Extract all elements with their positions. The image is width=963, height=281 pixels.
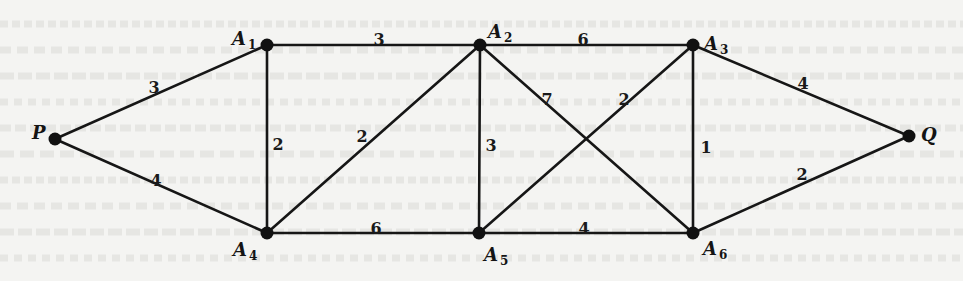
edge-weight-a3-q: 4: [797, 74, 808, 93]
node-subscript: 6: [719, 248, 727, 262]
edge-weight-a5-a6: 4: [578, 219, 589, 238]
edge-weight-a5-a3: 2: [618, 90, 629, 109]
node-p: [49, 133, 62, 146]
edge-weight-p-a1: 3: [148, 78, 159, 97]
edge-weight-a2-a3: 6: [577, 30, 588, 49]
edge-weight-a2-a6: 7: [541, 90, 552, 109]
node-q: [903, 130, 916, 143]
node-label-q: Q: [921, 124, 937, 145]
node-letter: A: [482, 244, 498, 265]
node-letter: A: [486, 21, 502, 42]
node-subscript: 5: [500, 254, 508, 268]
node-letter: A: [231, 239, 247, 260]
weighted-graph-diagram: 34322663724142 PA1A2A3A4A5A6Q: [0, 0, 963, 281]
node-a5: [473, 227, 486, 240]
edge-weight-a2-a5: 3: [485, 136, 496, 155]
edge-a2-a5: [479, 45, 480, 233]
node-letter: P: [31, 122, 46, 143]
node-letter: A: [701, 238, 717, 259]
edge-weight-a4-a5: 6: [370, 219, 381, 238]
edge-weight-a6-q: 2: [796, 165, 807, 184]
edge-weight-p-a4: 4: [150, 171, 161, 190]
node-label-p: P: [31, 122, 46, 143]
node-a2: [474, 39, 487, 52]
node-letter: A: [702, 33, 718, 54]
node-a3: [687, 39, 700, 52]
edge-weight-a4-a2: 2: [356, 127, 367, 146]
edge-weight-a3-a6: 1: [700, 138, 711, 157]
node-a6: [687, 227, 700, 240]
node-a4: [261, 227, 274, 240]
node-subscript: 1: [248, 38, 256, 52]
edge-weight-a1-a4: 2: [272, 135, 283, 154]
edge-weight-a1-a2: 3: [373, 30, 384, 49]
node-letter: Q: [921, 124, 937, 145]
node-a1: [261, 39, 274, 52]
node-subscript: 4: [249, 249, 257, 263]
node-subscript: 2: [504, 31, 512, 45]
node-letter: A: [230, 28, 246, 49]
node-subscript: 3: [720, 43, 728, 57]
